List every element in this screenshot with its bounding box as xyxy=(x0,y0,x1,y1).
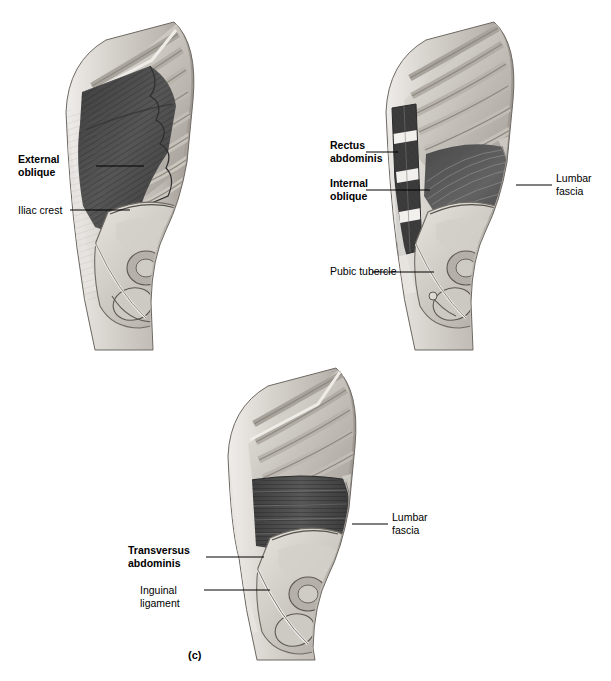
panel-internal-oblique: Rectus abdominis Internal oblique Lumbar… xyxy=(330,0,611,360)
label-internal-oblique: Internal oblique xyxy=(330,177,368,202)
label-iliac-crest: Iliac crest xyxy=(18,204,62,217)
label-lumbar-fascia-b: Lumbar fascia xyxy=(556,172,592,197)
panel-c-illustration xyxy=(160,352,460,662)
anatomy-figure: External oblique Iliac crest xyxy=(0,0,611,681)
label-transversus-abdominis: Transversus abdominis xyxy=(128,544,190,569)
panel-a-illustration xyxy=(0,0,300,360)
panel-external-oblique: External oblique Iliac crest xyxy=(0,0,300,360)
label-rectus-abdominis: Rectus abdominis xyxy=(330,139,383,164)
label-inguinal-ligament: Inguinal ligament xyxy=(140,584,180,609)
label-lumbar-fascia-c: Lumbar fascia xyxy=(392,511,428,536)
label-external-oblique: External oblique xyxy=(18,153,59,178)
pelvis-c xyxy=(257,528,363,654)
panel-transversus-abdominis: Lumbar fascia Transversus abdominis Ingu… xyxy=(160,352,460,662)
pelvis-a xyxy=(95,202,201,328)
pelvis-b xyxy=(415,202,521,328)
figure-caption: (c) xyxy=(188,649,201,661)
label-pubic-tubercle: Pubic tubercle xyxy=(330,265,397,278)
